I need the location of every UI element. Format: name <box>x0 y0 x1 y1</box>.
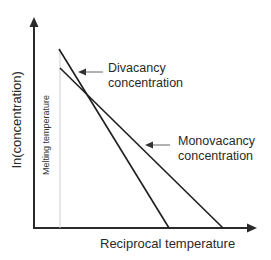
y-axis-arrowhead-icon <box>30 17 39 27</box>
divacancy-pointer-arrowhead-icon <box>78 69 86 76</box>
divacancy-label: Divacancy concentration <box>108 61 183 91</box>
x-axis-arrowhead-icon <box>247 224 257 233</box>
x-axis-label: Reciprocal temperature <box>100 236 235 251</box>
melting-temperature-label: Melting temperature <box>41 90 51 180</box>
divacancy-label-line1: Divacancy <box>108 61 183 76</box>
y-axis-label: ln(concentration) <box>9 65 24 175</box>
monovacancy-label: Monovacancy concentration <box>178 134 255 164</box>
divacancy-label-line2: concentration <box>108 76 183 91</box>
monovacancy-label-line1: Monovacancy <box>178 134 255 149</box>
monovacancy-pointer-arrowhead-icon <box>145 142 153 149</box>
monovacancy-label-line2: concentration <box>178 149 255 164</box>
